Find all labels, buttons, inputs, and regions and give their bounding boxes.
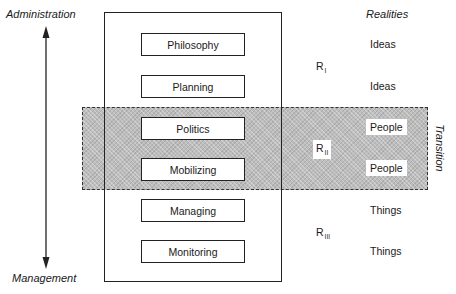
reality-group-r1: RI (316, 60, 326, 74)
axis-bottom-label: Management (12, 272, 76, 284)
axis-top-label: Administration (6, 8, 76, 20)
reality-people-2: People (366, 160, 407, 176)
reality-group-r3: RIII (316, 226, 330, 240)
stage-mobilizing: Mobilizing (141, 158, 245, 181)
transition-label: Transition (434, 124, 446, 171)
stage-label: Mobilizing (170, 164, 217, 176)
reality-group-r2: RII (313, 140, 331, 159)
r-subscript: I (325, 67, 327, 74)
stage-planning: Planning (141, 75, 245, 98)
stage-label: Philosophy (167, 39, 218, 51)
reality-things-2: Things (370, 245, 402, 257)
r-subscript: III (325, 233, 330, 240)
r-base: R (316, 226, 324, 238)
stage-monitoring: Monitoring (141, 240, 245, 263)
stage-label: Politics (176, 123, 209, 135)
double-arrow-icon (36, 26, 56, 269)
stage-philosophy: Philosophy (141, 33, 245, 56)
reality-people-1: People (366, 119, 407, 135)
stage-politics: Politics (141, 117, 245, 140)
r-subscript: II (325, 149, 329, 156)
r-base: R (316, 142, 324, 154)
reality-ideas-2: Ideas (370, 80, 396, 92)
stage-label: Planning (173, 81, 214, 93)
reality-things-1: Things (370, 204, 402, 216)
stage-managing: Managing (141, 199, 245, 222)
stage-label: Monitoring (168, 246, 217, 258)
stage-label: Managing (170, 205, 216, 217)
realities-header: Realities (366, 8, 408, 20)
reality-ideas-1: Ideas (370, 38, 396, 50)
r-base: R (316, 60, 324, 72)
